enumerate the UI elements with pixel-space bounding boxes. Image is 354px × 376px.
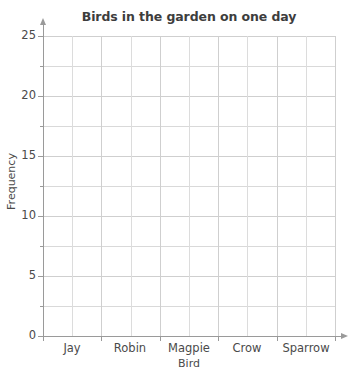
gridline-vertical	[218, 36, 219, 336]
gridline-vertical	[335, 36, 336, 336]
gridline-vertical	[160, 36, 161, 336]
y-axis-tick	[38, 276, 43, 277]
y-axis-arrow-icon	[40, 18, 46, 25]
gridline-vertical	[306, 36, 307, 336]
gridline-vertical	[72, 36, 73, 336]
y-axis-tick	[38, 156, 43, 157]
y-axis-minor-tick	[40, 246, 43, 247]
gridline-vertical	[277, 36, 278, 336]
x-axis-category-label: Crow	[218, 341, 276, 355]
x-axis-arrow-icon	[341, 333, 348, 339]
plot-area	[43, 36, 335, 336]
y-axis-tick-label: 0	[6, 328, 36, 342]
y-axis-tick-label: 25	[6, 28, 36, 42]
y-axis-minor-tick	[40, 126, 43, 127]
y-axis-line	[43, 24, 44, 336]
y-axis-tick-label: 5	[6, 268, 36, 282]
clipped-top-caption	[0, 0, 354, 5]
y-axis-minor-tick	[40, 66, 43, 67]
y-axis-title: Frequency	[5, 127, 18, 237]
y-axis-minor-tick	[40, 306, 43, 307]
gridline-vertical	[131, 36, 132, 336]
y-axis-tick	[38, 36, 43, 37]
y-axis-tick	[38, 96, 43, 97]
y-axis-tick-label: 20	[6, 88, 36, 102]
x-axis-category-label: Magpie	[160, 341, 218, 355]
bar-chart-figure: Birds in the garden on one day 051015202…	[0, 0, 354, 376]
y-axis-tick	[38, 216, 43, 217]
x-axis-category-label: Sparrow	[277, 341, 335, 355]
x-axis-line	[43, 336, 341, 337]
chart-title: Birds in the garden on one day	[43, 9, 335, 24]
x-axis-category-label: Jay	[43, 341, 101, 355]
x-axis-tick	[335, 336, 336, 341]
x-axis-category-label: Robin	[101, 341, 159, 355]
gridline-vertical	[247, 36, 248, 336]
gridline-vertical	[101, 36, 102, 336]
y-axis-minor-tick	[40, 186, 43, 187]
gridline-vertical	[189, 36, 190, 336]
x-axis-title: Bird	[43, 357, 335, 370]
